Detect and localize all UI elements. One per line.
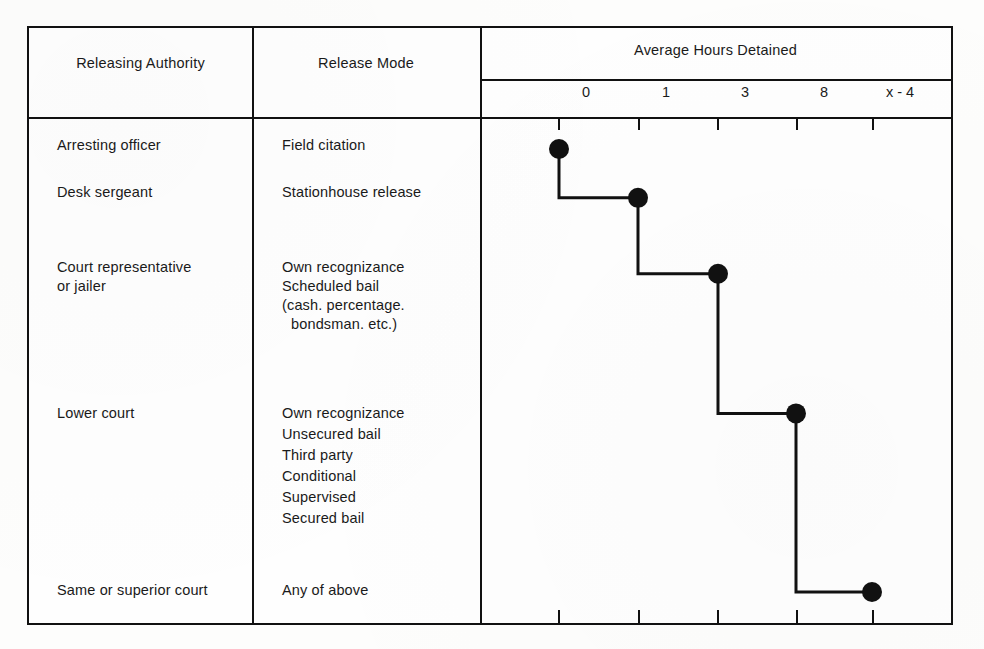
row-5-authority: Same or superior court — [57, 581, 247, 601]
detention-figure: Releasing Authority Release Mode Average… — [0, 0, 984, 649]
row-4-authority: Lower court — [57, 404, 247, 424]
data-point-marker-1 — [549, 139, 569, 159]
axis-tick-label-group: 0 1 3 8 x - 4 — [480, 84, 951, 114]
row-4-mode-line-6: Secured bail — [282, 509, 478, 529]
axis-tick-label-0: 0 — [582, 84, 590, 100]
data-point-marker-5 — [862, 582, 882, 602]
row-3-mode-line-4: bondsman. etc.) — [282, 315, 487, 335]
row-2-mode-line-1: Stationhouse release — [282, 183, 478, 203]
axis-tick-label-8: 8 — [820, 84, 828, 100]
column-header-releasing-authority: Releasing Authority — [29, 55, 252, 71]
row-3-mode-line-2: Scheduled bail — [282, 277, 478, 297]
table-frame: Releasing Authority Release Mode Average… — [27, 26, 953, 625]
column-header-release-mode: Release Mode — [252, 55, 480, 71]
row-4-mode-line-3: Third party — [282, 446, 478, 466]
axis-tick-label-3: 3 — [741, 84, 749, 100]
data-point-marker-2 — [628, 188, 648, 208]
axis-tick-label-1: 1 — [662, 84, 670, 100]
data-point-marker-3 — [708, 264, 728, 284]
row-3-authority-line-1: Court representative — [57, 258, 247, 278]
row-4-mode-line-1: Own recognizance — [282, 404, 478, 424]
axis-tick-label-x-4: x - 4 — [886, 84, 914, 100]
row-3-mode-line-3: (cash. percentage. — [282, 296, 478, 316]
row-1-authority: Arresting officer — [57, 136, 247, 156]
chart-title-underline — [480, 79, 951, 81]
data-point-marker-4 — [786, 403, 806, 423]
step-line — [559, 149, 872, 592]
row-4-mode-line-4: Conditional — [282, 467, 478, 487]
row-1-mode-line-1: Field citation — [282, 136, 478, 156]
step-plot — [480, 117, 951, 623]
row-3-mode-line-1: Own recognizance — [282, 258, 478, 278]
step-marker-group — [549, 139, 882, 602]
row-2-authority: Desk sergeant — [57, 183, 247, 203]
row-5-mode-line-1: Any of above — [282, 581, 478, 601]
step-plot-svg — [480, 117, 951, 623]
row-4-mode-line-2: Unsecured bail — [282, 425, 478, 445]
row-3-authority-line-2: or jailer — [57, 277, 247, 297]
chart-title: Average Hours Detained — [480, 42, 951, 58]
row-4-mode-line-5: Supervised — [282, 488, 478, 508]
